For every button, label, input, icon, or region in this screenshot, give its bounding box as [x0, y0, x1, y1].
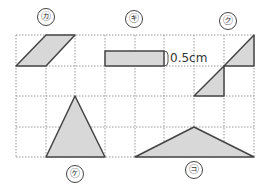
- shape-ka: [16, 35, 75, 66]
- label-ku: ㋗: [219, 12, 237, 30]
- shape-ko: [135, 127, 254, 157]
- label-ko: ㋙: [185, 161, 203, 179]
- shape-ke: [46, 96, 105, 157]
- label-ka: ㋕: [37, 8, 55, 26]
- shape-ku-lower: [194, 66, 224, 96]
- label-ki: ㋖: [125, 10, 143, 28]
- shape-ki: [105, 51, 164, 66]
- figure-diagram: ㋕ ㋖ ㋗ ㋘ ㋙ 0.5cm: [0, 0, 262, 186]
- shape-ku-upper: [224, 35, 254, 66]
- measurement-label: 0.5cm: [170, 51, 207, 65]
- label-ke: ㋘: [66, 165, 84, 183]
